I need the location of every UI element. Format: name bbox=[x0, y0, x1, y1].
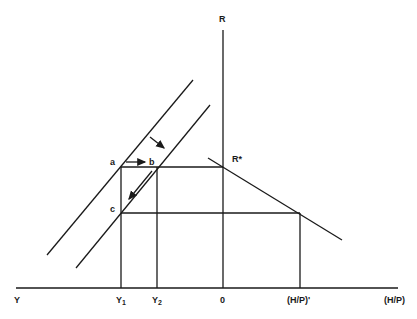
origin-label: 0 bbox=[220, 295, 225, 305]
y-axis-label: Y bbox=[14, 295, 20, 305]
y1-tick-label: Y1 bbox=[116, 295, 126, 306]
diagram-canvas: a b c R* R Y (H/P) 0 Y1 Y2 (H/P)' bbox=[0, 0, 417, 319]
point-b-label: b bbox=[149, 157, 155, 167]
hp-axis-label: (H/P) bbox=[384, 295, 405, 305]
arrow-shift-inward bbox=[150, 137, 164, 148]
hp-prime-tick-label: (H/P)' bbox=[287, 295, 310, 305]
point-c-label: c bbox=[110, 204, 115, 214]
point-r-star-label: R* bbox=[232, 154, 242, 164]
point-a-label: a bbox=[110, 157, 116, 167]
inner-diagonal-line bbox=[76, 105, 210, 268]
y2-tick-label: Y2 bbox=[152, 295, 162, 306]
descending-r-line bbox=[208, 158, 342, 240]
r-axis-label: R bbox=[219, 14, 226, 24]
arrow-b-to-c bbox=[129, 171, 152, 199]
